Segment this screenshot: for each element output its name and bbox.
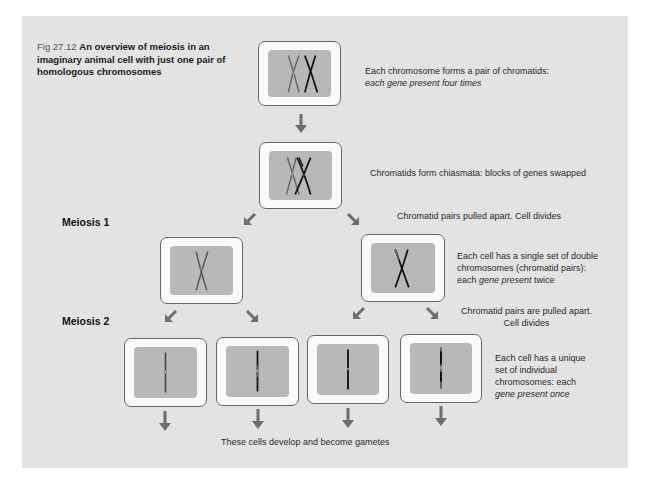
cell-meiosis1-right	[361, 234, 445, 302]
note-gametes: These cells develop and become gametes	[221, 436, 390, 448]
arrow-down-icon	[159, 411, 171, 432]
arrow-down-left-icon	[243, 212, 257, 226]
single-chromosome-dark-icon	[308, 336, 388, 403]
note-single-set-double: Each cell has a single set of double chr…	[457, 250, 598, 286]
arrow-down-icon	[342, 408, 354, 429]
single-chromosome-grey-icon	[125, 339, 206, 406]
figure-caption: Fig 27.12 An overview of meiosis in an i…	[37, 41, 247, 79]
gamete-cell-4	[400, 334, 482, 403]
note-chiasmata: Chromatids form chiasmata: blocks of gen…	[370, 167, 586, 179]
chromatid-pair-grey-icon	[161, 238, 242, 303]
chiasmata-icon	[260, 143, 341, 208]
single-chromosome-mixed-icon	[401, 335, 481, 402]
arrow-down-icon	[252, 409, 264, 430]
chromosome-pair-x-icon	[259, 42, 340, 105]
gamete-cell-1	[124, 338, 207, 407]
stage-label-meiosis-1: Meiosis 1	[62, 216, 109, 228]
gamete-cell-3	[307, 335, 389, 404]
cell-meiosis1-left	[160, 237, 243, 304]
chromatid-pair-dark-icon	[362, 235, 444, 301]
arrow-down-icon	[295, 114, 307, 134]
arrow-down-right-icon	[245, 309, 259, 323]
stage-label-meiosis-2: Meiosis 2	[62, 315, 109, 327]
note-chromatid-pairs-pulled-2: Chromatid pairs are pulled apart. Cell d…	[461, 305, 592, 329]
arrow-down-left-icon	[164, 309, 178, 323]
note-chromatid-formation: Each chromosome forms a pair of chromati…	[365, 65, 549, 89]
arrow-down-right-icon	[346, 212, 360, 226]
arrow-down-icon	[435, 406, 447, 427]
arrow-down-right-icon	[425, 306, 439, 320]
single-chromosome-mixed-icon	[217, 338, 298, 405]
figure-number: Fig 27.12	[37, 41, 77, 52]
arrow-down-left-icon	[352, 306, 366, 320]
cell-chiasmata	[259, 142, 342, 209]
gamete-cell-2	[216, 337, 299, 406]
cell-replicated-chromosomes	[258, 41, 341, 106]
note-chromatid-pairs-pulled: Chromatid pairs pulled apart. Cell divid…	[397, 210, 561, 222]
note-unique-individual: Each cell has a unique set of individual…	[495, 352, 586, 400]
